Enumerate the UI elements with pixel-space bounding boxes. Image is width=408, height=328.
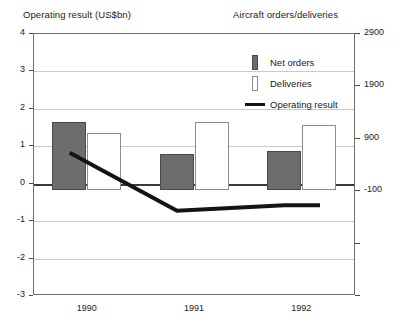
- left-axis-tick-label: 4: [0, 27, 25, 37]
- legend-label-operating-result: Operating result: [267, 99, 338, 110]
- x-axis-label: 1992: [271, 303, 331, 313]
- right-axis-title: Aircraft orders/deliveries: [233, 9, 338, 20]
- legend-label-net-orders: Net orders: [267, 57, 314, 68]
- legend-swatch-net-orders-icon: [243, 55, 267, 70]
- legend-item-deliveries: Deliveries: [243, 73, 373, 94]
- legend-item-net-orders: Net orders: [243, 52, 373, 73]
- left-axis-tick-label: -2: [0, 252, 25, 262]
- right-axis-tick-label: -100: [364, 184, 382, 194]
- chart-legend: Net orders Deliveries Operating result: [243, 52, 373, 115]
- left-axis-title: Operating result (US$bn): [23, 9, 131, 20]
- right-tick-mark-minor: [355, 295, 360, 296]
- legend-swatch-deliveries-icon: [243, 76, 267, 91]
- right-axis-tick-label: 900: [364, 132, 379, 142]
- right-tick-mark: [355, 138, 360, 139]
- right-axis-tick-label: 2900: [364, 27, 384, 37]
- operating-result-polyline: [70, 153, 320, 211]
- left-tick-mark: [29, 295, 33, 296]
- legend-item-operating-result: Operating result: [243, 94, 373, 115]
- left-axis-tick-label: 1: [0, 139, 25, 149]
- legend-label-deliveries: Deliveries: [267, 78, 312, 89]
- right-tick-mark: [355, 33, 360, 34]
- left-axis-tick-label: 0: [0, 177, 25, 187]
- right-tick-mark: [355, 190, 360, 191]
- x-axis-label: 1990: [57, 303, 117, 313]
- x-axis-label: 1991: [164, 303, 224, 313]
- left-axis-tick-label: 3: [0, 64, 25, 74]
- left-axis-tick-label: 2: [0, 102, 25, 112]
- right-tick-mark-minor: [355, 243, 360, 244]
- chart-container: Operating result (US$bn) Aircraft orders…: [0, 0, 408, 328]
- left-axis-tick-label: -1: [0, 214, 25, 224]
- left-axis-tick-label: -3: [0, 289, 25, 299]
- legend-swatch-operating-result-icon: [243, 103, 267, 106]
